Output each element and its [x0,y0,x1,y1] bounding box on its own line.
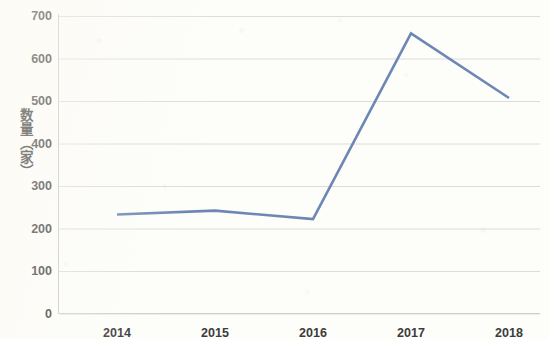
line-chart: 0100200300400500600700 20142015201620172… [0,0,549,339]
x-axis-tick-label: 2014 [103,327,131,339]
x-axis-tick-label: 2016 [299,327,327,339]
x-axis-tick-label: 2017 [397,327,425,339]
y-axis-title: 数量（家） [2,108,32,178]
x-axis-tick-labels: 20142015201620172018 [0,0,549,339]
x-axis-tick-label: 2018 [495,327,523,339]
x-axis-tick-label: 2015 [201,327,229,339]
